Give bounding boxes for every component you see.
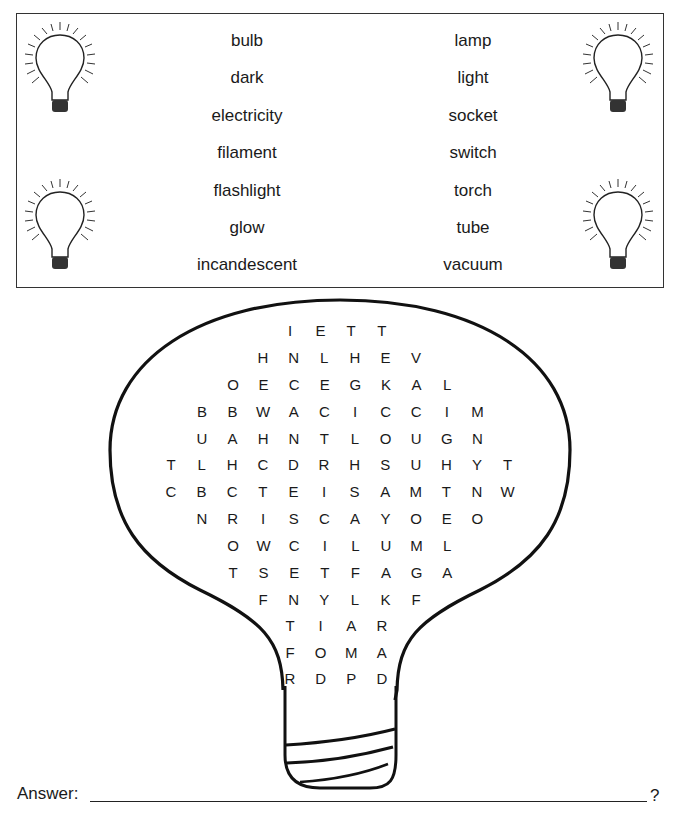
grid-letter[interactable]: U xyxy=(406,456,426,473)
grid-letter[interactable]: I xyxy=(314,483,334,500)
grid-letter[interactable]: R xyxy=(372,617,392,634)
grid-letter[interactable]: A xyxy=(284,403,304,420)
grid-letter[interactable]: H xyxy=(253,430,273,447)
grid-letter[interactable]: S xyxy=(284,510,304,527)
grid-letter[interactable]: L xyxy=(437,537,457,554)
grid-letter[interactable]: T xyxy=(436,483,456,500)
grid-letter[interactable]: C xyxy=(253,456,273,473)
grid-letter[interactable]: W xyxy=(498,483,518,500)
grid-letter[interactable]: C xyxy=(376,403,396,420)
grid-letter[interactable]: I xyxy=(437,403,457,420)
grid-letter[interactable]: E xyxy=(254,376,274,393)
grid-letter[interactable]: A xyxy=(372,644,392,661)
grid-letter[interactable]: O xyxy=(376,430,396,447)
grid-letter[interactable]: R xyxy=(314,456,334,473)
grid-letter[interactable]: O xyxy=(223,376,243,393)
grid-letter[interactable]: G xyxy=(407,564,427,581)
grid-letter[interactable]: L xyxy=(314,349,334,366)
grid-letter[interactable]: T xyxy=(314,430,334,447)
grid-letter[interactable]: T xyxy=(253,483,273,500)
grid-letter[interactable]: I xyxy=(253,510,273,527)
grid-letter[interactable]: O xyxy=(467,510,487,527)
grid-letter[interactable]: M xyxy=(341,644,361,661)
grid-letter[interactable]: A xyxy=(223,430,243,447)
grid-letter[interactable]: I xyxy=(345,403,365,420)
grid-letter[interactable]: T xyxy=(280,617,300,634)
grid-letter[interactable]: L xyxy=(437,376,457,393)
grid-letter[interactable]: N xyxy=(284,349,304,366)
grid-letter[interactable]: M xyxy=(406,483,426,500)
grid-letter[interactable]: O xyxy=(223,537,243,554)
grid-letter[interactable]: W xyxy=(254,537,274,554)
grid-letter[interactable]: C xyxy=(161,483,181,500)
grid-letter[interactable]: Y xyxy=(314,591,334,608)
grid-letter[interactable]: Y xyxy=(376,510,396,527)
grid-letter[interactable]: U xyxy=(406,430,426,447)
grid-letter[interactable]: F xyxy=(345,564,365,581)
grid-letter[interactable]: T xyxy=(498,456,518,473)
grid-letter[interactable]: L xyxy=(192,456,212,473)
grid-letter[interactable]: I xyxy=(315,537,335,554)
grid-letter[interactable]: M xyxy=(407,537,427,554)
grid-letter[interactable]: T xyxy=(223,564,243,581)
grid-letter[interactable]: I xyxy=(311,617,331,634)
grid-letter[interactable]: B xyxy=(192,483,212,500)
grid-letter[interactable]: H xyxy=(345,349,365,366)
grid-letter[interactable]: N xyxy=(284,591,304,608)
grid-letter[interactable]: T xyxy=(161,456,181,473)
grid-letter[interactable]: N xyxy=(467,483,487,500)
grid-letter[interactable]: V xyxy=(406,349,426,366)
grid-letter[interactable]: C xyxy=(406,403,426,420)
grid-letter[interactable]: C xyxy=(314,510,334,527)
grid-letter[interactable]: K xyxy=(375,591,395,608)
grid-letter[interactable]: O xyxy=(311,644,331,661)
grid-letter[interactable]: C xyxy=(284,376,304,393)
grid-letter[interactable]: T xyxy=(341,322,361,339)
grid-letter[interactable]: H xyxy=(345,456,365,473)
grid-letter[interactable]: C xyxy=(284,537,304,554)
grid-letter[interactable]: H xyxy=(436,456,456,473)
answer-input[interactable] xyxy=(90,801,647,802)
grid-letter[interactable]: N xyxy=(467,430,487,447)
grid-letter[interactable]: E xyxy=(283,483,303,500)
grid-letter[interactable]: E xyxy=(375,349,395,366)
grid-letter[interactable]: R xyxy=(223,510,243,527)
grid-letter[interactable]: D xyxy=(311,670,331,687)
grid-letter[interactable]: F xyxy=(280,644,300,661)
grid-letter[interactable]: D xyxy=(372,670,392,687)
grid-letter[interactable]: C xyxy=(222,483,242,500)
grid-letter[interactable]: U xyxy=(192,430,212,447)
grid-letter[interactable]: S xyxy=(254,564,274,581)
grid-letter[interactable]: K xyxy=(376,376,396,393)
grid-letter[interactable]: E xyxy=(284,564,304,581)
grid-letter[interactable]: N xyxy=(284,430,304,447)
grid-letter[interactable]: A xyxy=(376,564,396,581)
grid-letter[interactable]: L xyxy=(345,537,365,554)
grid-letter[interactable]: A xyxy=(407,376,427,393)
grid-letter[interactable]: F xyxy=(406,591,426,608)
grid-letter[interactable]: R xyxy=(280,670,300,687)
grid-letter[interactable]: C xyxy=(314,403,334,420)
grid-letter[interactable]: H xyxy=(222,456,242,473)
grid-letter[interactable]: H xyxy=(253,349,273,366)
grid-letter[interactable]: T xyxy=(372,322,392,339)
grid-letter[interactable]: P xyxy=(341,670,361,687)
grid-letter[interactable]: E xyxy=(311,322,331,339)
grid-letter[interactable]: A xyxy=(341,617,361,634)
grid-letter[interactable]: W xyxy=(253,403,273,420)
grid-letter[interactable]: U xyxy=(376,537,396,554)
grid-letter[interactable]: S xyxy=(345,483,365,500)
grid-letter[interactable]: O xyxy=(406,510,426,527)
grid-letter[interactable]: A xyxy=(375,483,395,500)
grid-letter[interactable]: G xyxy=(345,376,365,393)
grid-letter[interactable]: L xyxy=(345,430,365,447)
grid-letter[interactable]: N xyxy=(192,510,212,527)
grid-letter[interactable]: G xyxy=(437,430,457,447)
grid-letter[interactable]: T xyxy=(315,564,335,581)
grid-letter[interactable]: F xyxy=(253,591,273,608)
grid-letter[interactable]: A xyxy=(345,510,365,527)
grid-letter[interactable]: D xyxy=(283,456,303,473)
grid-letter[interactable]: M xyxy=(467,403,487,420)
grid-letter[interactable]: L xyxy=(345,591,365,608)
grid-letter[interactable]: E xyxy=(315,376,335,393)
